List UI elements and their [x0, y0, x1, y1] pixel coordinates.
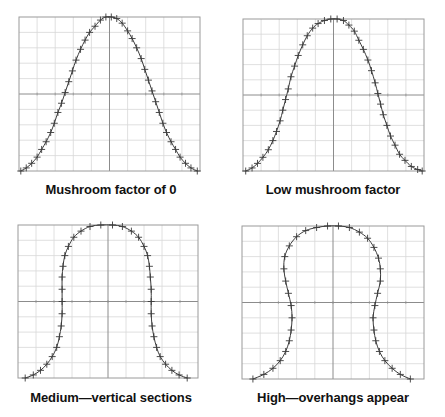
caption-high-overhangs: High—overhangs appear: [222, 390, 444, 405]
plot-high-overhangs: [0, 0, 445, 417]
